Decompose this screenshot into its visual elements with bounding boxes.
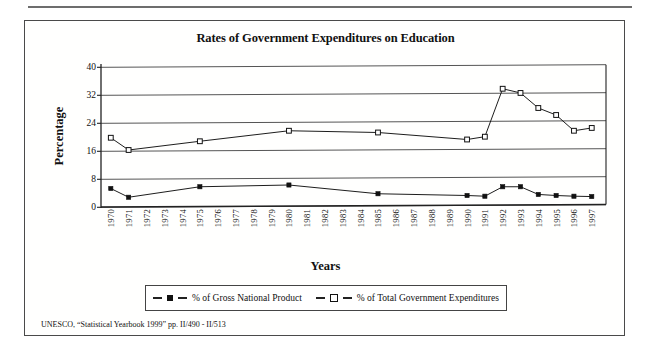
- plot-area: [101, 66, 606, 206]
- x-tick-label: 1996: [569, 209, 579, 227]
- x-tick-label: 1985: [373, 209, 383, 227]
- x-tick-labels: 1970197119721973197419751976197719781979…: [101, 209, 606, 257]
- x-tick-label: 1971: [124, 209, 134, 227]
- source-footnote: UNESCO, “Statistical Yearbook 1999” pp. …: [41, 320, 226, 329]
- x-tick-label: 1991: [480, 209, 490, 227]
- legend-line-icon: [178, 297, 187, 298]
- x-tick-label: 1979: [267, 209, 277, 227]
- x-tick-label: 1983: [338, 209, 348, 227]
- x-tick-label: 1984: [356, 209, 366, 227]
- y-tick-label: 24: [87, 118, 97, 128]
- y-axis-label: Percentage: [52, 91, 70, 181]
- y-tick-label: 32: [87, 90, 97, 100]
- x-tick-label: 1990: [463, 209, 473, 227]
- x-tick-label: 1997: [587, 209, 597, 227]
- x-tick-label: 1988: [427, 209, 437, 227]
- x-tick-label: 1987: [409, 209, 419, 227]
- legend-line-icon: [343, 297, 352, 298]
- filled-square-icon: [167, 295, 173, 301]
- legend-label-total-gov: % of Total Government Expenditures: [357, 293, 499, 303]
- x-tick-label: 1980: [284, 209, 294, 227]
- x-tick-label: 1973: [160, 209, 170, 227]
- legend-item-gnp: % of Gross National Product: [153, 293, 302, 303]
- x-tick-label: 1992: [498, 209, 508, 227]
- open-square-icon: [330, 294, 338, 302]
- chart-canvas: [101, 66, 606, 206]
- x-tick-label: 1974: [178, 209, 188, 227]
- x-axis-label: Years: [25, 259, 626, 274]
- legend-line-icon: [153, 297, 162, 298]
- x-tick-label: 1970: [106, 209, 116, 227]
- plot-wrapper: 0816243240: [101, 66, 606, 206]
- x-tick-label: 1972: [142, 209, 152, 227]
- x-tick-label: 1993: [516, 209, 526, 227]
- y-tick-label: 16: [87, 146, 97, 156]
- chart-title: Rates of Government Expenditures on Educ…: [25, 31, 626, 46]
- x-tick-label: 1975: [195, 209, 205, 227]
- chart-legend: % of Gross National Product % of Total G…: [145, 285, 507, 311]
- y-tick-label: 40: [87, 62, 97, 72]
- chart-frame: Rates of Government Expenditures on Educ…: [24, 20, 625, 336]
- x-tick-label: 1994: [534, 209, 544, 227]
- x-tick-label: 1986: [391, 209, 401, 227]
- y-tick-label: 8: [91, 174, 96, 184]
- scan-rule-top: [28, 6, 632, 8]
- x-tick-label: 1995: [552, 209, 562, 227]
- legend-line-icon: [316, 297, 325, 298]
- x-tick-label: 1982: [320, 209, 330, 227]
- y-tick-label: 0: [91, 202, 96, 212]
- x-tick-label: 1989: [445, 209, 455, 227]
- legend-label-gnp: % of Gross National Product: [192, 293, 302, 303]
- x-tick-label: 1981: [302, 209, 312, 227]
- x-tick-label: 1976: [213, 209, 223, 227]
- legend-item-total-gov: % of Total Government Expenditures: [316, 293, 499, 303]
- x-tick-label: 1977: [231, 209, 241, 227]
- x-tick-label: 1978: [249, 209, 259, 227]
